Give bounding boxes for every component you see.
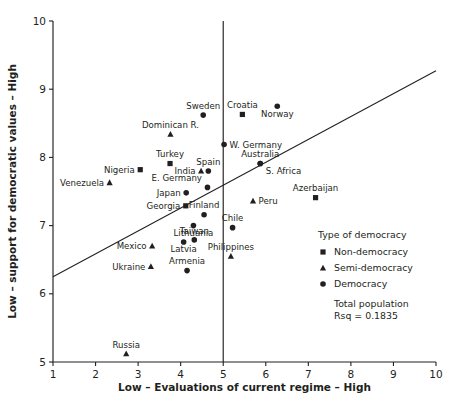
- data-point-chile: [230, 225, 236, 231]
- x-tick-label: 3: [135, 368, 142, 380]
- point-label-japan: Japan: [156, 188, 181, 198]
- point-label-philippines: Philippines: [208, 242, 255, 252]
- y-axis-title: Low – support for democratic values – Hi…: [6, 64, 18, 319]
- data-point-spain: [206, 168, 212, 174]
- point-label-e-germany: E. Germany: [152, 173, 202, 183]
- y-tick-label: 7: [39, 219, 46, 231]
- data-point-armenia: [184, 268, 190, 274]
- data-point-ukraine: [148, 263, 154, 269]
- point-label-russia: Russia: [112, 340, 140, 350]
- point-label-sweden: Sweden: [186, 101, 220, 111]
- point-label-norway: Norway: [261, 109, 294, 119]
- point-label-s-africa: S. Africa: [266, 166, 301, 176]
- point-label-spain: Spain: [196, 157, 220, 167]
- data-point-mexico: [149, 243, 155, 249]
- point-label-peru: Peru: [259, 196, 278, 206]
- point-label-nigeria: Nigeria: [104, 165, 135, 175]
- point-label-azerbaijan: Azerbaijan: [293, 183, 338, 193]
- data-point-s-africa: [257, 161, 263, 167]
- point-label-armenia: Armenia: [169, 256, 205, 266]
- point-label-latvia: Latvia: [171, 244, 197, 254]
- point-label-venezuela: Venezuela: [60, 178, 104, 188]
- x-tick-label: 7: [305, 368, 312, 380]
- data-point-azerbaijan: [313, 195, 318, 200]
- y-tick-label: 8: [39, 151, 46, 163]
- plot-canvas: 123456789105678910Low – Evaluations of c…: [0, 0, 455, 407]
- point-label-ukraine: Ukraine: [112, 262, 145, 272]
- legend-label-semi-democracy: Semi-democracy: [334, 262, 413, 273]
- x-tick-label: 9: [390, 368, 397, 380]
- legend-note-population: Total population: [333, 298, 409, 309]
- x-tick-label: 6: [262, 368, 269, 380]
- y-tick-label: 5: [39, 356, 46, 368]
- legend-marker-circle: [320, 281, 326, 287]
- data-point-turkey: [167, 161, 172, 166]
- data-point-peru: [250, 198, 256, 204]
- x-tick-label: 8: [348, 368, 355, 380]
- legend-label-non-democracy: Non-democracy: [334, 246, 409, 257]
- data-point-e-germany: [205, 185, 211, 191]
- legend-title: Type of democracy: [317, 229, 407, 240]
- data-point-croatia: [240, 112, 245, 117]
- point-label-chile: Chile: [222, 213, 244, 223]
- data-point-russia: [123, 351, 129, 357]
- y-tick-label: 6: [39, 287, 46, 299]
- point-label-australia: Australia: [241, 149, 279, 159]
- data-point-georgia: [183, 203, 188, 208]
- data-point-finland: [201, 212, 207, 218]
- point-label-turkey: Turkey: [155, 149, 184, 159]
- point-label-taiwan: Taiwan: [179, 226, 209, 236]
- point-label-w-germany: W. Germany: [230, 140, 282, 150]
- x-tick-label: 1: [50, 368, 57, 380]
- data-point-w-germany: [221, 142, 227, 148]
- legend-note-rsq: Rsq = 0.1835: [334, 310, 398, 321]
- data-point-dominican-r: [167, 131, 173, 137]
- data-point-nigeria: [138, 167, 143, 172]
- x-tick-label: 4: [177, 368, 184, 380]
- data-point-philippines: [228, 253, 234, 259]
- x-axis-title: Low – Evaluations of current regime – Hi…: [118, 381, 371, 393]
- x-tick-label: 10: [429, 368, 442, 380]
- point-label-finland: Finland: [189, 200, 220, 210]
- point-label-georgia: Georgia: [147, 201, 181, 211]
- data-point-taiwan: [191, 237, 197, 243]
- legend-marker-square: [320, 249, 325, 254]
- data-point-sweden: [200, 112, 206, 118]
- point-label-dominican-r: Dominican R.: [142, 120, 199, 130]
- data-point-venezuela: [106, 179, 112, 185]
- y-tick-label: 10: [33, 15, 46, 27]
- legend-label-democracy: Democracy: [334, 278, 388, 289]
- y-tick-label: 9: [39, 83, 46, 95]
- x-tick-label: 2: [92, 368, 99, 380]
- legend-marker-triangle: [320, 265, 326, 271]
- point-label-croatia: Croatia: [227, 100, 258, 110]
- scatter-chart: 123456789105678910Low – Evaluations of c…: [0, 0, 455, 407]
- x-tick-label: 5: [220, 368, 227, 380]
- point-label-mexico: Mexico: [117, 241, 147, 251]
- data-point-japan: [183, 190, 189, 196]
